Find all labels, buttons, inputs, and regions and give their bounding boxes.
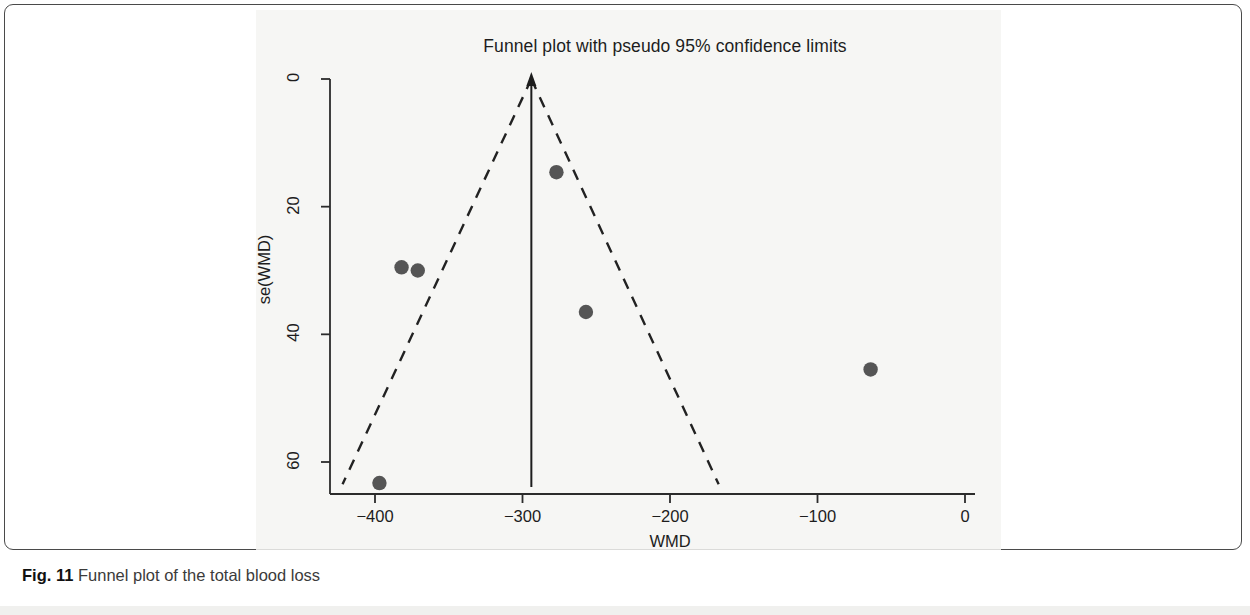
pseudo-ci-left-line	[343, 79, 532, 484]
figure-caption-text: Funnel plot of the total blood loss	[78, 566, 320, 584]
data-point	[394, 260, 408, 274]
x-axis-tick-label: −400	[330, 507, 420, 526]
pseudo-ci-right-line	[531, 79, 718, 484]
data-points	[372, 165, 878, 490]
data-point	[372, 476, 386, 490]
pooled-effect-arrowhead	[526, 72, 536, 86]
x-axis-tick-label: −300	[478, 507, 568, 526]
x-axis-tick-label: −200	[625, 507, 715, 526]
x-axis-tick-label: 0	[920, 507, 1010, 526]
x-axis-ticks	[375, 494, 965, 503]
y-axis-tick-label: 60	[284, 438, 303, 484]
figure-caption: Fig. 11 Funnel plot of the total blood l…	[22, 566, 320, 585]
pooled-effect-line	[526, 72, 536, 487]
data-point	[411, 263, 425, 277]
x-axis-tick-label: −100	[773, 507, 863, 526]
page-bottom-edge	[0, 606, 1250, 615]
figure-number: Fig. 11	[22, 566, 73, 584]
y-axis-tick-label: 40	[284, 310, 303, 356]
y-axis-tick-label: 0	[284, 55, 303, 101]
data-point	[863, 362, 877, 376]
y-axis-tick-label: 20	[284, 182, 303, 228]
funnel-plot: Funnel plot with pseudo 95% confidence l…	[0, 0, 1250, 615]
y-axis-ticks	[321, 79, 330, 462]
data-point	[549, 165, 563, 179]
data-point	[579, 305, 593, 319]
